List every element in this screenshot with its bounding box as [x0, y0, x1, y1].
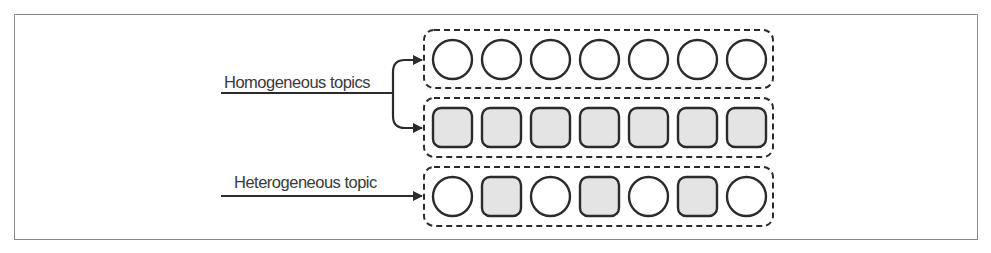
homogeneous-circles-row	[433, 40, 766, 79]
homogeneous-topics-label: Homogeneous topics	[224, 73, 370, 92]
heterogeneous-topic-label: Heterogeneous topic	[234, 173, 377, 192]
homogeneous-connector	[221, 60, 422, 128]
circle-shape	[531, 177, 570, 216]
circle-shape	[580, 40, 619, 79]
circle-shape	[727, 40, 766, 79]
rounded-square-shape	[629, 108, 668, 147]
rounded-square-shape	[678, 177, 717, 216]
rounded-square-shape	[678, 108, 717, 147]
homogeneous-squares-row	[433, 108, 766, 147]
circle-shape	[433, 177, 472, 216]
rounded-square-shape	[531, 108, 570, 147]
circle-shape	[629, 177, 668, 216]
rounded-square-shape	[482, 108, 521, 147]
circle-shape	[482, 40, 521, 79]
rounded-square-shape	[433, 108, 472, 147]
rounded-square-shape	[727, 108, 766, 147]
rounded-square-shape	[580, 108, 619, 147]
circle-shape	[433, 40, 472, 79]
circle-shape	[531, 40, 570, 79]
rounded-square-shape	[580, 177, 619, 216]
topic-diagram	[0, 0, 991, 253]
heterogeneous-mixed-row	[433, 177, 766, 216]
circle-shape	[678, 40, 717, 79]
circle-shape	[629, 40, 668, 79]
rounded-square-shape	[482, 177, 521, 216]
circle-shape	[727, 177, 766, 216]
